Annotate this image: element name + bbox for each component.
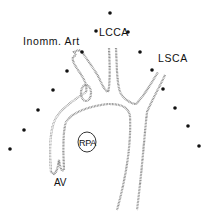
label-lsca: LSCA [158, 53, 188, 64]
label-innominate-artery: Inomm. Art [23, 36, 80, 47]
marker-dot [150, 68, 154, 72]
label-av: AV [54, 178, 66, 188]
marker-dot [51, 88, 55, 92]
label-lcca: LCCA [99, 27, 129, 38]
marker-dot [65, 69, 69, 73]
marker-dot [173, 106, 177, 110]
marker-dot [186, 124, 190, 128]
marker-dot [197, 144, 201, 148]
marker-dot [138, 50, 142, 54]
label-rpa: RPA [79, 139, 96, 148]
marker-dot [161, 87, 165, 91]
marker-dot [80, 50, 84, 54]
marker-dot [22, 128, 26, 132]
marker-dot [36, 108, 40, 112]
marker-dot [8, 147, 12, 151]
marker-dot [108, 11, 112, 15]
marker-dot [94, 29, 98, 33]
